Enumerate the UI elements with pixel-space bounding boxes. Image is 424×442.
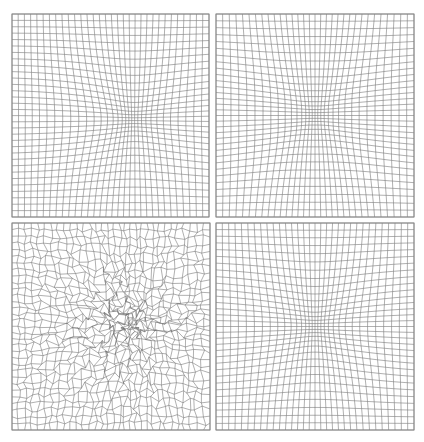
mesh-lines xyxy=(216,223,414,430)
mesh-lines xyxy=(12,223,210,430)
mesh-svg xyxy=(216,14,414,217)
mesh-lines xyxy=(12,14,209,217)
mesh-svg xyxy=(216,223,414,430)
mesh-lines xyxy=(216,14,414,217)
mesh-panel-bottom-right xyxy=(216,223,414,430)
panel-frame xyxy=(12,14,209,217)
mesh-svg xyxy=(12,14,209,217)
mesh-svg xyxy=(12,223,210,430)
mesh-panel-top-right xyxy=(216,14,414,217)
mesh-panel-top-left xyxy=(12,14,209,217)
mesh-panel-bottom-left xyxy=(12,223,210,430)
